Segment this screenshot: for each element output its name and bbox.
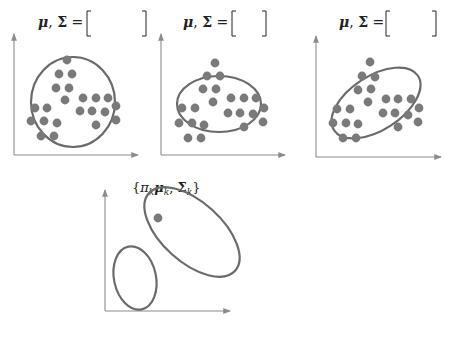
- gmm-covariance-figure: μ, Σ =: [0, 0, 449, 343]
- left-bracket: [87, 11, 91, 36]
- left-bracket: [386, 11, 390, 36]
- data-points: [329, 58, 424, 143]
- sigma-symbol: Σ: [57, 14, 67, 30]
- svg-text:μ, Σ =: μ, Σ =: [38, 14, 83, 30]
- right-bracket: [432, 11, 436, 36]
- right-bracket: [262, 11, 266, 36]
- panel-a-formula: μ, Σ =: [38, 11, 146, 36]
- cluster-ellipse-1: [108, 242, 162, 313]
- mu-symbol: μ: [38, 14, 48, 30]
- panel-b: μ, Σ =: [161, 11, 285, 155]
- panel-d: {πkμk, Σk}: [105, 171, 255, 314]
- panel-c: μ, Σ =: [316, 11, 441, 157]
- panel-c-formula: μ, Σ =: [339, 11, 436, 36]
- right-bracket: [142, 11, 146, 36]
- covariance-ellipse: [319, 53, 432, 153]
- panel-a: μ, Σ =: [14, 11, 146, 155]
- data-points: [175, 59, 269, 143]
- left-bracket: [232, 11, 236, 36]
- svg-text:μ, Σ =: μ, Σ =: [339, 14, 384, 30]
- data-points: [154, 214, 163, 223]
- panel-b-formula: μ, Σ =: [183, 11, 266, 36]
- svg-text:μ, Σ =: μ, Σ =: [183, 14, 228, 30]
